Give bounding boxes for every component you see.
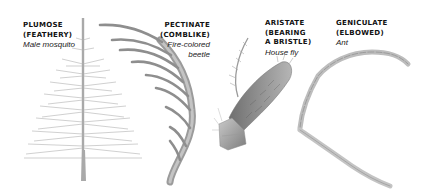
aristate-type: ARISTATE <box>265 19 311 29</box>
plumose-type-alt: (FEATHERY) <box>23 31 75 41</box>
pectinate-label: PECTINATE (COMBLIKE) Fire-colored beetle <box>158 21 210 59</box>
geniculate-label: GENICULATE (ELBOWED) Ant <box>336 19 388 48</box>
pectinate-example-2: beetle <box>158 50 210 60</box>
plumose-label: PLUMOSE (FEATHERY) Male mosquito <box>23 21 75 50</box>
plumose-example: Male mosquito <box>23 40 75 50</box>
plumose-type: PLUMOSE <box>23 21 75 31</box>
antenna-types-figure: PLUMOSE (FEATHERY) Male mosquito PECTINA… <box>0 0 436 194</box>
aristate-type-alt-1: (BEARING <box>265 29 311 39</box>
aristate-label: ARISTATE (BEARING A BRISTLE) House fly <box>265 19 311 57</box>
geniculate-type-alt: (ELBOWED) <box>336 29 388 39</box>
pectinate-example-1: Fire-colored <box>158 40 210 50</box>
aristate-example: House fly <box>265 48 311 58</box>
pectinate-type-alt: (COMBLIKE) <box>158 31 210 41</box>
aristate-type-alt-2: A BRISTLE) <box>265 38 311 48</box>
pectinate-type: PECTINATE <box>158 21 210 31</box>
geniculate-antenna-illustration <box>300 52 408 186</box>
geniculate-type: GENICULATE <box>336 19 388 29</box>
geniculate-example: Ant <box>336 38 388 48</box>
